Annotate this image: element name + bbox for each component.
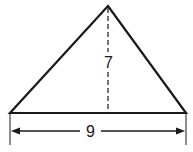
height-label: 7 bbox=[104, 54, 113, 71]
triangle-diagram: 7 9 bbox=[0, 0, 193, 152]
left-arrowhead-icon bbox=[11, 128, 20, 135]
right-arrowhead-icon bbox=[176, 128, 185, 135]
triangle bbox=[10, 6, 186, 113]
base-label: 9 bbox=[86, 123, 95, 140]
